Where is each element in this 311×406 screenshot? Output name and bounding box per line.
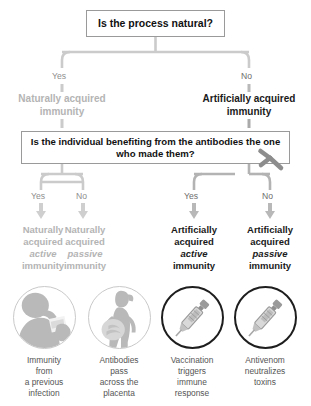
- caption-previous-infection: Immunity from a previous infection: [5, 355, 83, 399]
- caption-line-1: Antibodies: [80, 355, 158, 366]
- outcome-artificially-acquired-active: Artificially acquired active immunity: [157, 224, 231, 272]
- question-box-primary: Is the process natural?: [86, 10, 225, 37]
- outcome-line-1: Artificially: [233, 224, 307, 236]
- outcome-artificially-acquired-passive: Artificially acquired passive immunity: [233, 224, 307, 272]
- caption-line-1: Antivenom: [226, 355, 304, 366]
- caption-line-4: infection: [5, 388, 83, 399]
- connector-q1-left-corner: [62, 52, 70, 68]
- branch-label-no-branch2: No: [76, 192, 87, 201]
- caption-line-4: placenta: [80, 388, 158, 399]
- arrow-branch-3: [189, 203, 199, 219]
- question-1-text: Is the process natural?: [98, 17, 213, 30]
- outcome-line-3: active: [181, 248, 208, 259]
- outcome-line-3: passive: [253, 248, 288, 259]
- caption-line-2: from: [5, 366, 83, 377]
- outcome-line-3: passive: [68, 248, 103, 259]
- caption-antivenom: Antivenom neutralizes toxins: [226, 355, 304, 388]
- caption-line-4: response: [153, 388, 231, 399]
- branch-label-yes-branch3: Yes: [184, 192, 198, 201]
- caption-line-3: immune: [153, 377, 231, 388]
- connector-q1-right-corner: [241, 52, 249, 68]
- caption-line-2: neutralizes: [226, 366, 304, 377]
- outcome-naturally-acquired-immunity: Naturally acquired immunity: [8, 93, 116, 118]
- outcome-line-1: Naturally acquired: [8, 93, 116, 106]
- outcome-line-4: immunity: [48, 260, 122, 272]
- connector-q2-right-yes-corner: [194, 174, 202, 190]
- outcome-line-2: acquired: [233, 236, 307, 248]
- syringe-icon: [161, 286, 224, 349]
- arrow-branch-4: [265, 203, 275, 219]
- connector-q1-bar: [62, 47, 249, 52]
- outcome-naturally-acquired-passive: Naturally acquired passive immunity: [48, 224, 122, 272]
- outcome-line-1: Artificially acquired: [195, 93, 303, 106]
- outcome-artificially-acquired-immunity: Artificially acquired immunity: [195, 93, 303, 118]
- caption-line-3: across the: [80, 377, 158, 388]
- caption-vaccination: Vaccination triggers immune response: [153, 355, 231, 399]
- branch-label-no-level1: No: [241, 72, 252, 81]
- caption-line-1: Immunity: [5, 355, 83, 366]
- question-box-secondary: Is the individual benefiting from the an…: [21, 131, 290, 164]
- arrow-branch-2: [78, 203, 88, 219]
- outcome-line-1: Artificially: [157, 224, 231, 236]
- caption-line-2: pass: [80, 366, 158, 377]
- antibody-y-icon: [254, 141, 286, 173]
- outcome-line-2: immunity: [195, 106, 303, 119]
- branch-label-yes-level1: Yes: [52, 72, 66, 81]
- pregnant-woman-icon: [88, 286, 151, 349]
- caption-line-2: triggers: [153, 366, 231, 377]
- caption-line-1: Vaccination: [153, 355, 231, 366]
- outcome-line-4: immunity: [233, 260, 307, 272]
- caption-line-3: toxins: [226, 377, 304, 388]
- syringe-icon: [234, 286, 297, 349]
- caption-placenta: Antibodies pass across the placenta: [80, 355, 158, 399]
- outcome-line-2: acquired: [157, 236, 231, 248]
- question-2-text: Is the individual benefiting from the an…: [30, 136, 281, 159]
- person-coughing-icon: [13, 286, 76, 349]
- outcome-line-4: immunity: [157, 260, 231, 272]
- caption-line-3: a previous: [5, 377, 83, 388]
- arrow-branch-1: [36, 203, 46, 219]
- connector-q2-right-no-corner: [262, 174, 270, 190]
- branch-label-yes-branch1: Yes: [31, 192, 45, 201]
- branch-label-no-branch4: No: [262, 192, 273, 201]
- outcome-line-2: acquired: [48, 236, 122, 248]
- outcome-line-2: immunity: [8, 106, 116, 119]
- outcome-line-1: Naturally: [48, 224, 122, 236]
- flowchart-diagram: Is the process natural? Yes No Naturally…: [0, 0, 311, 406]
